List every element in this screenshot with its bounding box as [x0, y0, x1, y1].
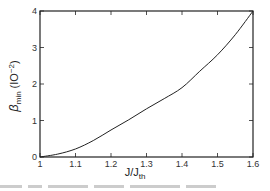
x-tick-label: 1.6 — [247, 159, 260, 169]
x-tick-label: 1.1 — [69, 159, 82, 169]
y-tick-label: 2 — [32, 79, 37, 89]
y-tick-label: 1 — [32, 116, 37, 126]
y-axis-ticks: 01234 — [32, 6, 253, 162]
y-tick-label: 3 — [32, 43, 37, 53]
y-tick-label: 0 — [32, 152, 37, 162]
x-tick-label: 1.3 — [140, 159, 153, 169]
x-tick-label: 1.5 — [211, 159, 224, 169]
y-axis-label: βmin(IO−2) — [6, 60, 23, 112]
x-tick-label: 1 — [37, 159, 42, 169]
x-tick-label: 1.2 — [105, 159, 118, 169]
y-tick-label: 4 — [32, 6, 37, 16]
plot-frame — [40, 11, 253, 157]
x-tick-label: 1.4 — [176, 159, 189, 169]
x-axis-ticks: 11.11.21.31.41.51.6 — [37, 11, 259, 169]
truncated-caption — [0, 185, 270, 191]
data-curve — [40, 11, 253, 157]
chart: 11.11.21.31.41.51.6 01234 J/Jth βmin(IO−… — [0, 0, 270, 191]
